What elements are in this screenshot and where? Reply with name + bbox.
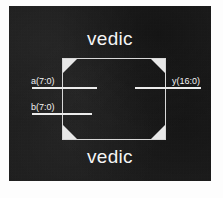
port-label-y: y(16:0) <box>172 76 200 86</box>
figure-canvas: vedic a(7:0) b(7:0) y(16:0) vedic <box>0 0 223 198</box>
block-title-bottom: vedic <box>9 146 211 168</box>
port-label-a: a(7:0) <box>31 76 55 86</box>
corner-chamfer-bottom-left-icon <box>63 125 77 139</box>
diagram-layer: vedic a(7:0) b(7:0) y(16:0) vedic <box>9 6 211 181</box>
input-wire-a <box>32 87 97 89</box>
output-wire-y <box>135 87 201 89</box>
scanned-figure-plate: vedic a(7:0) b(7:0) y(16:0) vedic <box>9 6 211 181</box>
corner-chamfer-bottom-right-icon <box>151 125 165 139</box>
block-title-top: vedic <box>9 28 211 50</box>
port-label-b: b(7:0) <box>31 102 55 112</box>
input-wire-b <box>32 113 92 115</box>
corner-chamfer-top-left-icon <box>63 59 77 73</box>
vedic-multiplier-block <box>62 58 166 140</box>
corner-chamfer-top-right-icon <box>151 59 165 73</box>
